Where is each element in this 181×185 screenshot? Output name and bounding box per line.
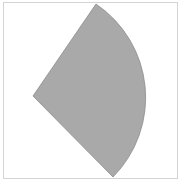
sector-diagram — [0, 0, 181, 185]
sector-shape — [33, 4, 146, 177]
